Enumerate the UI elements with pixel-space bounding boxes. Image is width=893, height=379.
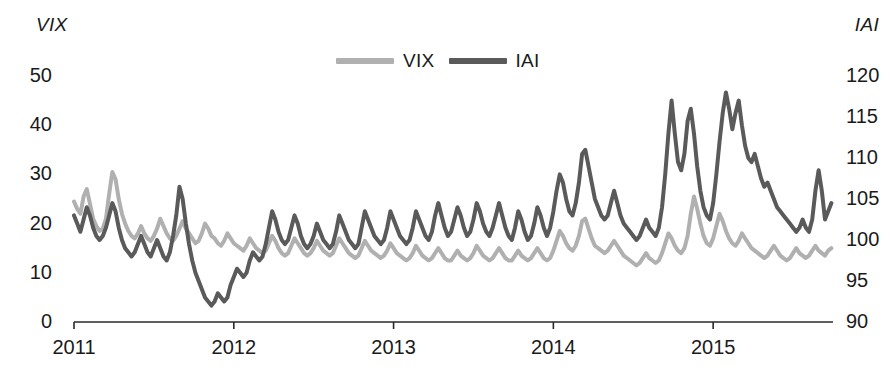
x-tick-marks xyxy=(74,322,713,329)
series-line-iai xyxy=(74,92,831,305)
chart-figure: VIX IAI VIX IAI 01020304050 909510010511… xyxy=(0,0,893,379)
plot-area xyxy=(0,0,893,379)
